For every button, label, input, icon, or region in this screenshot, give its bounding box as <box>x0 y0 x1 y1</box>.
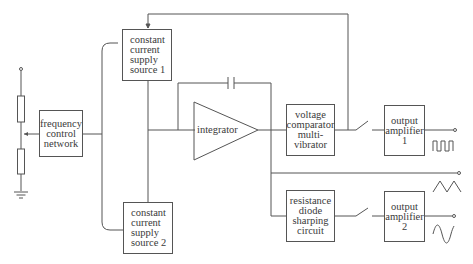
voltage-comparator-block: voltage comparator multi- vibrator <box>286 104 335 156</box>
label: network <box>44 139 78 149</box>
frequency-control-network-block: frequency control network <box>39 110 83 157</box>
label: output <box>391 202 418 212</box>
switch2-blade <box>356 208 368 216</box>
label: source 2 <box>131 238 166 248</box>
label: frequency <box>40 119 82 129</box>
resistor-lower-icon <box>18 149 25 174</box>
sine-wave-icon <box>433 225 454 243</box>
label: circuit <box>297 226 324 236</box>
label: 2 <box>402 222 407 232</box>
output-amplifier-1-block: output amplifier 1 <box>384 105 425 156</box>
integrator-label: integrator <box>197 124 238 135</box>
square-wave-icon <box>433 141 453 151</box>
label: control <box>46 129 76 139</box>
label: amplifier <box>385 212 423 222</box>
label: output <box>391 116 418 126</box>
switch1-blade <box>356 121 368 130</box>
constant-current-source-1-block: constant current supply source 1 <box>122 29 172 81</box>
output-amplifier-2-block: output amplifier 2 <box>384 191 425 242</box>
label: 1 <box>402 136 407 146</box>
label: amplifier <box>385 126 423 136</box>
terminal-top <box>20 68 23 71</box>
resistance-diode-sharping-block: resistance diode sharping circuit <box>286 190 335 242</box>
constant-current-source-2-block: constant current supply source 2 <box>123 202 173 254</box>
label: vibrator <box>294 140 327 150</box>
resistor-upper-icon <box>18 96 25 122</box>
label: source 1 <box>130 65 165 75</box>
triangle-wave-icon <box>433 181 461 192</box>
